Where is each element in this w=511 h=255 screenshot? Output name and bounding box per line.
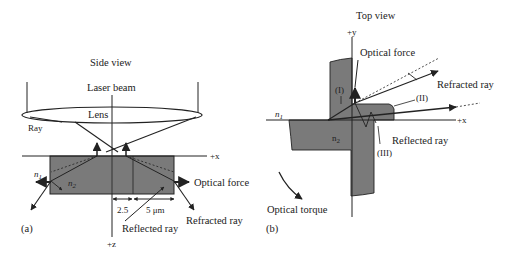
optical-force-leader-top	[355, 60, 358, 87]
reflected-ray-label-top: Reflected ray	[392, 135, 449, 146]
side-view-title: Side view	[90, 57, 132, 68]
region-3-label: (III)	[377, 148, 392, 158]
top-view-title: Top view	[356, 10, 396, 21]
lens-label: Lens	[88, 109, 108, 120]
refracted-ray-label-top: Refracted ray	[437, 79, 495, 90]
x-axis-label-side: +x	[210, 151, 220, 161]
panel-side-view: Side view Laser beam Lens +z +x Ray	[21, 57, 249, 249]
region-2-leader	[394, 100, 415, 106]
panel-top-view: Top view +y +x Optical force Refracted r…	[266, 10, 495, 235]
caption-b: (b)	[266, 223, 279, 235]
exit-ray-left	[31, 181, 51, 210]
optical-force-label-side: Optical force	[194, 177, 249, 188]
exit-ray-right	[174, 181, 194, 210]
laser-beam-label: Laser beam	[87, 82, 136, 93]
dimension-label-2-5: 2.5	[117, 205, 129, 215]
ray-label: Ray	[28, 123, 43, 133]
optical-force-label-top: Optical force	[360, 47, 415, 58]
n1-label-top: n1	[275, 109, 283, 121]
y-axis-label-top: +y	[347, 27, 357, 37]
reflected-ray-label-side: Reflected ray	[122, 223, 179, 234]
figure-canvas: Side view Laser beam Lens +z +x Ray	[0, 0, 511, 255]
optical-torque-label: Optical torque	[267, 204, 328, 215]
region-3-leader	[378, 126, 380, 144]
caption-a: (a)	[21, 223, 33, 235]
region-2-label: (II)	[416, 93, 428, 103]
refracted-ray-top-2-dash	[456, 103, 480, 107]
z-axis-label: +z	[107, 239, 116, 249]
x-axis-label-top: +x	[457, 115, 467, 125]
optical-torque-arrow	[279, 172, 302, 199]
refracted-ray-label-side: Refracted ray	[186, 215, 244, 226]
n1-label-side: n1	[34, 169, 42, 181]
region-1-label: (I)	[335, 85, 344, 95]
dimension-label-5um: 5 μm	[146, 205, 165, 215]
refracted-leader-top	[408, 73, 417, 80]
